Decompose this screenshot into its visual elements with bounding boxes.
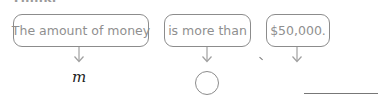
down-arrow-icon [291, 47, 303, 63]
phrase-box-fifty-thousand: $50,000. [266, 14, 330, 47]
inequality-symbol-blank-circle[interactable] [195, 71, 219, 95]
phrase-text: is more than [168, 23, 247, 38]
phrase-box-amount-of-money: The amount of money [13, 14, 149, 47]
number-blank-line[interactable] [304, 93, 378, 94]
section-heading-cropped: Think. [12, 0, 57, 5]
variable-m: m [72, 68, 86, 86]
stray-pen-mark [259, 57, 263, 60]
phrase-text: $50,000. [270, 23, 326, 38]
phrase-text: The amount of money [12, 23, 150, 38]
phrase-box-is-more-than: is more than [164, 14, 251, 47]
down-arrow-icon [201, 47, 213, 63]
down-arrow-icon [73, 47, 85, 63]
